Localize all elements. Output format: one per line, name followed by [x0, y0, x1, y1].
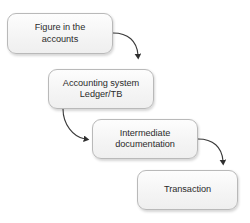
connector-accounting-system-to-intermediate [63, 109, 85, 139]
connector-figure-to-accounting-system [113, 33, 138, 55]
node-transaction[interactable]: Transaction [137, 170, 238, 210]
node-label: Figure in the accounts [35, 22, 85, 45]
node-figure-in-the-accounts[interactable]: Figure in the accounts [7, 13, 113, 54]
connector-intermediate-to-transaction [198, 139, 223, 161]
node-accounting-system[interactable]: Accounting system Ledger/TB [48, 69, 154, 109]
flowchart-diagram: Figure in the accounts Accounting system… [0, 0, 250, 223]
node-intermediate-documentation[interactable]: Intermediate documentation [92, 119, 198, 159]
node-label: Accounting system Ledger/TB [63, 78, 139, 101]
node-label: Intermediate documentation [115, 128, 175, 151]
node-label: Transaction [164, 184, 211, 196]
